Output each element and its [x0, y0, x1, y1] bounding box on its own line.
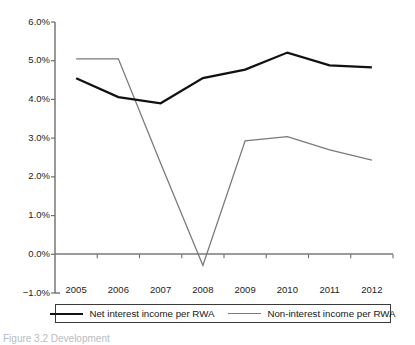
x-axis-tick-label: 2007 — [150, 284, 171, 295]
x-axis-label-group: 20052006200720082009201020112012 — [0, 284, 415, 300]
series-line-net-interest-income — [76, 53, 372, 104]
x-axis-tick-label: 2006 — [108, 284, 129, 295]
x-axis-tick-label: 2009 — [235, 284, 256, 295]
legend-entry-non-interest-income: Non-interest income per RWA — [228, 308, 395, 319]
x-axis-tick-label: 2005 — [66, 284, 87, 295]
x-axis-tick-label: 2012 — [361, 284, 382, 295]
y-axis-tick-label: 6.0% — [14, 17, 50, 27]
figure-caption: Figure 3.2 Development — [3, 333, 412, 345]
x-axis-tick-label: 2010 — [277, 284, 298, 295]
y-axis-tick-label: 0.0% — [14, 249, 50, 259]
chart-plot-area: 6.0%5.0%4.0%3.0%2.0%1.0%0.0%−1.0% — [0, 0, 415, 300]
y-axis-tick-label: 5.0% — [14, 55, 50, 65]
chart-legend: Net interest income per RWA Non-interest… — [55, 304, 391, 323]
legend-label-net-interest-income: Net interest income per RWA — [89, 308, 214, 319]
legend-entry-net-interest-income: Net interest income per RWA — [50, 308, 214, 319]
y-axis-tick-label: 2.0% — [14, 171, 50, 181]
line-chart-svg — [0, 0, 415, 300]
legend-line-swatch-gray-icon — [228, 313, 261, 314]
x-axis-tick-label: 2011 — [319, 284, 339, 295]
legend-line-swatch-black-icon — [50, 313, 83, 315]
y-axis-label-group: 6.0%5.0%4.0%3.0%2.0%1.0%0.0%−1.0% — [14, 0, 50, 300]
figure-container: 6.0%5.0%4.0%3.0%2.0%1.0%0.0%−1.0% 200520… — [0, 0, 415, 345]
series-line-non-interest-income — [76, 59, 372, 266]
y-axis-tick-label: 1.0% — [14, 210, 50, 220]
x-axis-tick-label: 2008 — [192, 284, 213, 295]
x-axis-ticks — [97, 254, 393, 258]
legend-label-non-interest-income: Non-interest income per RWA — [267, 308, 395, 319]
y-axis-tick-label: 3.0% — [14, 133, 50, 143]
y-axis-tick-label: 4.0% — [14, 94, 50, 104]
figure-caption-text: Figure 3.2 Development — [3, 333, 412, 344]
